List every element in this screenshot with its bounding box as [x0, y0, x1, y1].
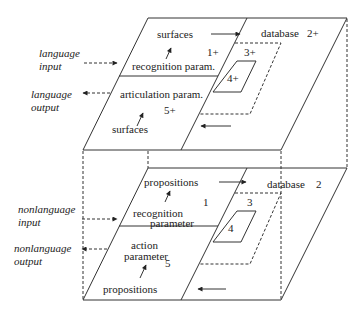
bottom-plane-outline [83, 168, 347, 300]
language-output-label-2: output [31, 102, 59, 113]
language-input-label-2: input [39, 61, 62, 72]
top-surfaces-up-arrow [166, 48, 171, 59]
language-input-label-1: language [39, 48, 80, 59]
bottom-propositions-up-arrow [165, 191, 170, 202]
bottom-region-3-dashed [199, 193, 281, 264]
top-database-label: database [261, 28, 299, 39]
bottom-database-num: 2 [316, 179, 322, 190]
top-recognition-label: recognition param. [132, 61, 215, 72]
bottom-recognition-label-2: parameter [150, 218, 194, 229]
bottom-database-label: database [267, 179, 305, 190]
bottom-lower-propositions-label: propositions [103, 284, 157, 295]
bottom-region-3: 3 [247, 197, 253, 208]
nonlanguage-output-label-2: output [14, 256, 42, 267]
top-region-5: 5+ [164, 105, 176, 116]
top-surfaces-label: surfaces [157, 29, 193, 40]
language-output-label-1: language [31, 89, 72, 100]
nonlanguage-output-label-1: nonlanguage [14, 243, 71, 254]
top-region-3: 3+ [244, 47, 256, 58]
top-lower-surfaces-label: surfaces [112, 124, 148, 135]
top-region-4: 4+ [227, 73, 239, 84]
top-region-1: 1+ [207, 47, 219, 58]
bottom-region-4-box [213, 211, 256, 242]
bottom-region-5: 5 [165, 258, 171, 269]
nonlanguage-input-label-2: input [18, 217, 41, 228]
bottom-action-label-2: parameter [124, 251, 168, 262]
bottom-propositions-label: propositions [144, 177, 198, 188]
top-articulation-label: articulation param. [120, 89, 203, 100]
top-database-num: 2+ [307, 28, 319, 39]
bottom-region-4: 4 [228, 223, 234, 234]
nonlanguage-input-label-1: nonlanguage [18, 204, 75, 215]
bottom-action-arrow [140, 265, 146, 278]
bottom-region-1: 1 [203, 197, 209, 208]
